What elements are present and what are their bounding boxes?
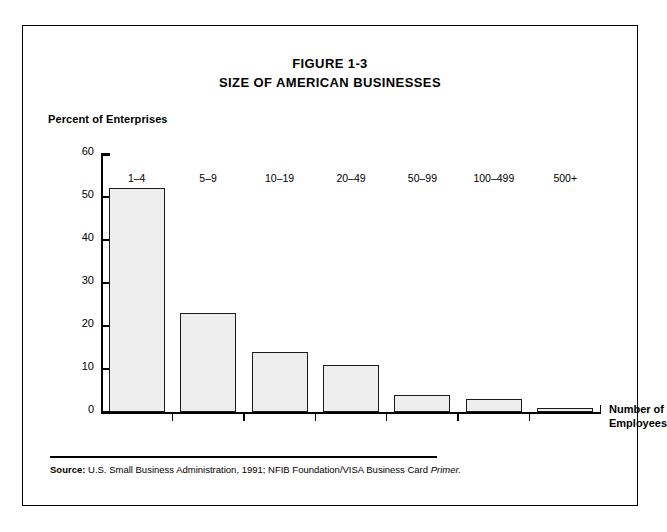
y-axis-tick-label: 20 [82,317,94,329]
x-axis-category-label: 5–9 [172,172,243,184]
source-note: Source: U.S. Small Business Administrati… [50,463,461,476]
source-italic-title: Primer. [431,464,461,475]
x-axis-title: Number of Employees [609,402,667,430]
page-title: SIZE OF AMERICAN BUSINESSES [23,73,637,92]
x-axis-category-label: 100–499 [458,172,529,184]
x-axis-tick [243,412,245,421]
y-axis-tick-label: 50 [82,188,94,200]
x-axis-tick [172,412,174,421]
x-axis-tick [457,412,459,421]
x-axis-title-line-1: Number of [609,402,667,416]
y-axis-title: Percent of Enterprises [48,113,168,125]
y-axis-tick-label: 60 [82,145,94,157]
x-axis-line [101,412,601,414]
footnote-divider [50,456,437,458]
bar [394,395,450,412]
source-text: U.S. Small Business Administration, 1991… [85,464,430,475]
y-axis-tick-label: 30 [82,274,94,286]
bar [537,408,593,412]
y-axis-tick-label: 40 [82,231,94,243]
y-axis-tick-label: 10 [82,360,94,372]
bar [466,399,522,412]
x-axis-category-label: 20–49 [315,172,386,184]
figure-title-block: FIGURE 1-3 SIZE OF AMERICAN BUSINESSES [23,54,637,92]
figure-frame: FIGURE 1-3 SIZE OF AMERICAN BUSINESSES P… [22,25,638,506]
bar-chart-plot: 0102030405060 1–45–910–1920–4950–99100–4… [101,154,601,412]
x-axis-category-label: 500+ [530,172,601,184]
bar [252,352,308,412]
x-axis-tick [529,412,531,421]
x-axis-title-line-2: Employees [609,416,667,430]
x-axis-tick [315,412,317,421]
x-axis-category-label: 50–99 [387,172,458,184]
bar [109,188,165,412]
x-axis-tick [386,412,388,421]
source-label: Source: [50,464,85,475]
bar [180,313,236,412]
x-axis-category-label: 1–4 [101,172,172,184]
figure-number: FIGURE 1-3 [23,54,637,73]
x-axis-category-label: 10–19 [244,172,315,184]
bar-series [101,154,601,412]
bar [323,365,379,412]
y-axis-tick-label: 0 [88,403,94,415]
